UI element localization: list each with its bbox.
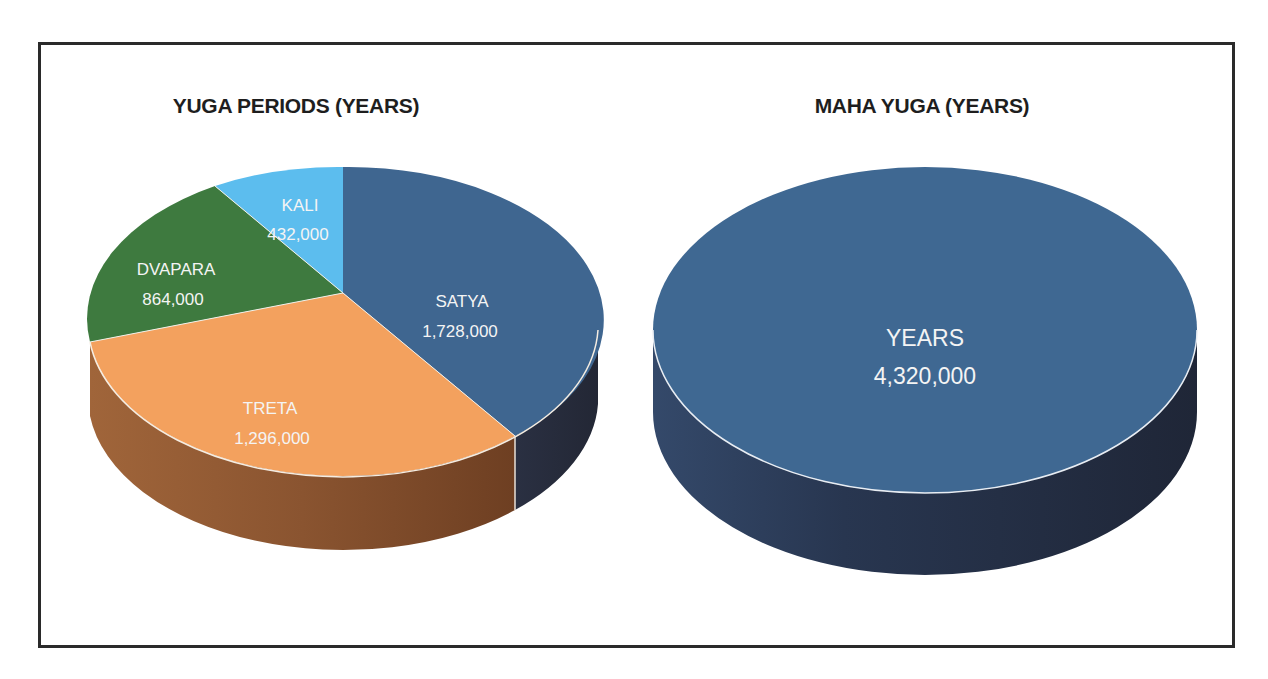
yuga-periods-pie: KALI 432,000 DVAPARA 864,000 SATYA 1,728…	[87, 167, 604, 550]
dvapara-name: DVAPARA	[137, 260, 216, 279]
kali-value: 432,000	[267, 225, 328, 244]
maha-yuga-pie: YEARS 4,320,000	[653, 167, 1197, 575]
kali-name: KALI	[282, 196, 319, 215]
charts-canvas: KALI 432,000 DVAPARA 864,000 SATYA 1,728…	[0, 0, 1268, 679]
treta-name: TRETA	[243, 399, 298, 418]
dvapara-value: 864,000	[142, 290, 203, 309]
years-name: YEARS	[886, 325, 964, 351]
satya-name: SATYA	[435, 292, 489, 311]
satya-value: 1,728,000	[422, 322, 498, 341]
treta-value: 1,296,000	[234, 429, 310, 448]
years-value: 4,320,000	[874, 363, 976, 389]
